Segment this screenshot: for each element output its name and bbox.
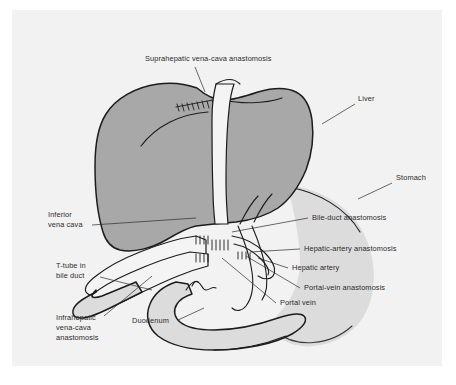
label-t-tube-line2: bile duct [56, 271, 84, 280]
leader-stomach [358, 183, 392, 199]
leader-duodenum [178, 308, 204, 320]
leader-hepatic-artery-anastomosis [250, 249, 300, 252]
label-infrahepatic-line1: Infrahepatic [56, 313, 96, 322]
infrahepatic-suture-hatch [212, 240, 228, 250]
label-duodenum: Duodenum [132, 316, 169, 325]
label-hepatic-artery-anastomosis: Hepatic-artery anastomosis [304, 244, 397, 253]
label-hepatic-artery: Hepatic artery [292, 263, 340, 272]
label-inferior-vena-cava-line1: Inferior [48, 210, 72, 219]
label-t-tube-line1: T-tube in [56, 261, 86, 270]
label-portal-vein: Portal vein [280, 298, 316, 307]
leader-portal-vein-anastomosis [246, 256, 300, 288]
leader-portal-vein [222, 258, 276, 303]
label-suprahepatic-vena-cava-anastomosis: Suprahepatic vena-cava anastomosis [145, 54, 272, 63]
label-bile-duct-anastomosis: Bile-duct anastomosis [312, 213, 387, 222]
label-inferior-vena-cava-line2: vena cava [48, 220, 83, 229]
leader-liver [322, 104, 355, 124]
label-infrahepatic-line2: vena-cava [56, 323, 92, 332]
label-infrahepatic-line3: anastomosis [56, 333, 99, 342]
liver-organ [95, 83, 313, 251]
label-stomach: Stomach [396, 173, 426, 182]
figure-page: Suprahepatic vena-cava anastomosis Liver… [0, 0, 456, 385]
anatomy-diagram: Suprahepatic vena-cava anastomosis Liver… [0, 0, 456, 385]
leader-hepatic-artery [258, 258, 288, 268]
label-portal-vein-anastomosis: Portal-vein anastomosis [304, 283, 385, 292]
label-liver: Liver [358, 94, 375, 103]
